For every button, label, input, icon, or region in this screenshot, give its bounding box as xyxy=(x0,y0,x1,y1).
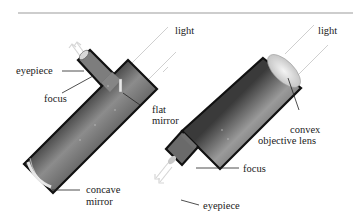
leader-focus xyxy=(62,76,93,93)
concave-mirror-label-line1: concave xyxy=(86,184,120,195)
flat-mirror-label-line2: mirror xyxy=(152,115,179,126)
refractor-focus-label: focus xyxy=(243,163,266,174)
reflector-focus-label: focus xyxy=(44,93,67,104)
reflector-tube xyxy=(24,60,157,193)
refractor-telescope xyxy=(155,25,328,205)
refractor-eyepiece-label: eyepiece xyxy=(203,200,240,211)
convex-lens-label-line2: objective lens xyxy=(258,135,316,146)
telescope-diagram: light eyepiece focus flat mirror concave… xyxy=(0,0,353,220)
eyepiece-rays-refractor xyxy=(155,163,172,183)
flat-mirror xyxy=(119,79,122,92)
convex-lens-label-line1: convex xyxy=(290,124,320,135)
reflector-light-label: light xyxy=(175,25,194,36)
refractor-light-label: light xyxy=(318,25,337,36)
leader-eyepiece-refractor xyxy=(181,200,199,205)
flat-mirror-label-line1: flat xyxy=(152,104,166,115)
reflector-eyepiece-label: eyepiece xyxy=(16,65,53,76)
concave-mirror-label-line2: mirror xyxy=(86,196,113,207)
